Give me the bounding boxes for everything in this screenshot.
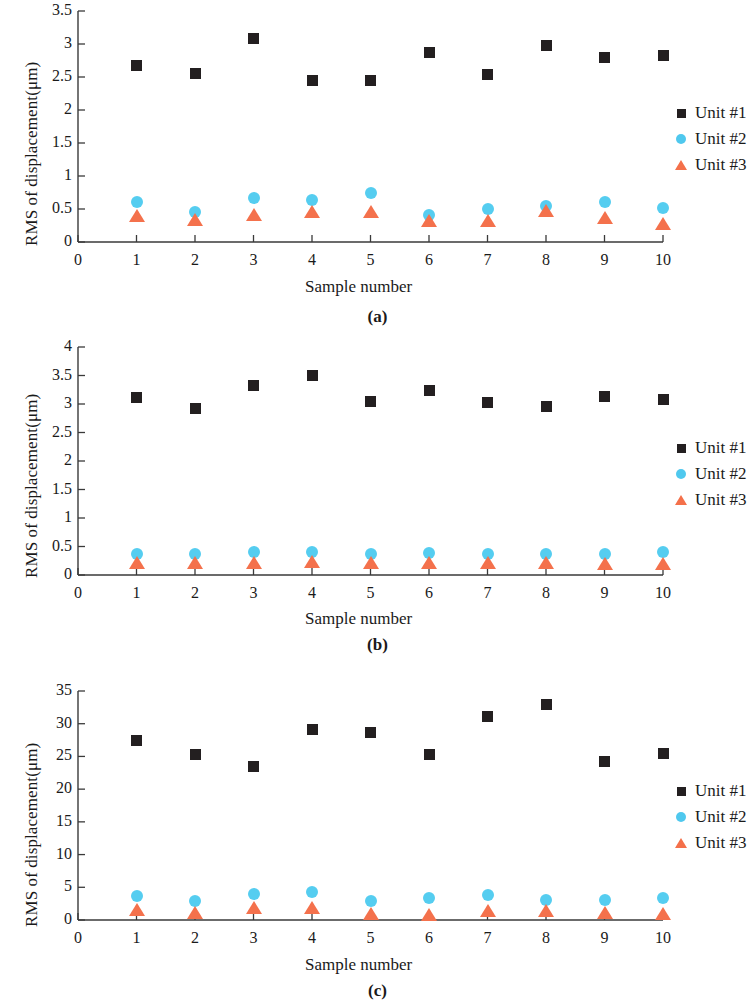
x-tick-label: 8 — [526, 929, 566, 947]
data-point — [421, 908, 437, 921]
data-point — [307, 724, 318, 735]
x-tick-label: 5 — [351, 251, 391, 269]
x-tick-label: 2 — [175, 584, 215, 602]
data-point — [363, 205, 379, 218]
x-tick-label: 7 — [468, 251, 508, 269]
data-point — [597, 211, 613, 224]
data-point — [248, 192, 260, 204]
x-axis-label-c: Sample number — [305, 955, 412, 975]
data-point — [480, 904, 496, 917]
legend-item: Unit #3 — [672, 830, 746, 856]
legend-b: Unit #1 Unit #2 Unit #3 — [672, 435, 746, 513]
data-point — [248, 761, 259, 772]
data-point — [365, 895, 377, 907]
x-tick-label: 4 — [292, 584, 332, 602]
data-point — [248, 380, 259, 391]
data-point — [131, 735, 142, 746]
y-tick-label: 3 — [30, 394, 72, 412]
x-tick-label: 5 — [351, 929, 391, 947]
x-tick-label: 4 — [292, 929, 332, 947]
data-point — [190, 403, 201, 414]
legend-item: Unit #2 — [672, 804, 746, 830]
data-point — [246, 901, 262, 914]
data-point — [131, 890, 143, 902]
legend-item: Unit #1 — [672, 100, 746, 126]
x-tick-label: 3 — [234, 251, 274, 269]
legend-item: Unit #1 — [672, 778, 746, 804]
panel-caption-c: (c) — [0, 981, 755, 1001]
data-point — [363, 907, 379, 920]
x-tick-label: 10 — [643, 251, 683, 269]
axes-b — [0, 335, 755, 655]
data-point — [599, 196, 611, 208]
circle-marker-icon — [672, 134, 690, 144]
data-point — [131, 392, 142, 403]
legend-label: Unit #3 — [695, 155, 746, 175]
y-tick-label: 2.5 — [30, 67, 72, 85]
x-tick-label: 1 — [117, 251, 157, 269]
y-tick-label: 15 — [30, 812, 72, 830]
triangle-marker-icon — [672, 160, 690, 170]
data-point — [655, 907, 671, 920]
data-point — [424, 749, 435, 760]
x-tick-label: 9 — [585, 251, 625, 269]
circle-marker-icon — [672, 469, 690, 479]
data-point — [482, 69, 493, 80]
legend-item: Unit #2 — [672, 461, 746, 487]
data-point — [599, 52, 610, 63]
x-tick-label: 4 — [292, 251, 332, 269]
data-point — [129, 903, 145, 916]
square-marker-icon — [672, 444, 690, 453]
data-point — [421, 214, 437, 227]
data-point — [424, 47, 435, 58]
y-tick-label: 3.5 — [30, 1, 72, 19]
y-tick-label: 5 — [30, 877, 72, 895]
data-point — [306, 886, 318, 898]
panel-c: RMS of displacement(μm) 05101520253035 0… — [0, 655, 755, 1006]
data-point — [482, 397, 493, 408]
data-point — [304, 555, 320, 568]
data-point — [304, 901, 320, 914]
y-tick-label: 0 — [30, 910, 72, 928]
y-tick-label: 1.5 — [30, 133, 72, 151]
panel-a: RMS of displacement(μm) 00.511.522.533.5… — [0, 0, 755, 335]
x-tick-label: 7 — [468, 929, 508, 947]
data-point — [655, 557, 671, 570]
data-point — [421, 556, 437, 569]
legend-item: Unit #3 — [672, 487, 746, 513]
data-point — [599, 756, 610, 767]
data-point — [424, 385, 435, 396]
y-tick-label: 2 — [30, 451, 72, 469]
x-tick-label: 2 — [175, 251, 215, 269]
x-tick-label: 6 — [409, 251, 449, 269]
y-tick-label: 1 — [30, 166, 72, 184]
data-point — [307, 75, 318, 86]
data-point — [658, 748, 669, 759]
y-tick-label: 30 — [30, 714, 72, 732]
data-point — [129, 209, 145, 222]
x-tick-label: 8 — [526, 251, 566, 269]
legend-a: Unit #1 Unit #2 Unit #3 — [672, 100, 746, 178]
y-tick-label: 4 — [30, 337, 72, 355]
data-point — [658, 50, 669, 61]
data-point — [597, 906, 613, 919]
data-point — [246, 208, 262, 221]
x-tick-label: 1 — [117, 929, 157, 947]
y-tick-label: 3 — [30, 34, 72, 52]
x-tick-label: 8 — [526, 584, 566, 602]
data-point — [482, 711, 493, 722]
y-tick-label: 35 — [30, 681, 72, 699]
data-point — [657, 202, 669, 214]
data-point — [538, 904, 554, 917]
data-point — [538, 204, 554, 217]
legend-label: Unit #3 — [695, 833, 746, 853]
data-point — [541, 699, 552, 710]
y-tick-label: 1 — [30, 508, 72, 526]
x-tick-label: 2 — [175, 929, 215, 947]
x-tick-label: 7 — [468, 584, 508, 602]
data-point — [131, 60, 142, 71]
triangle-marker-icon — [672, 838, 690, 848]
legend-label: Unit #1 — [695, 103, 746, 123]
data-point — [658, 394, 669, 405]
y-tick-label: 0.5 — [30, 537, 72, 555]
